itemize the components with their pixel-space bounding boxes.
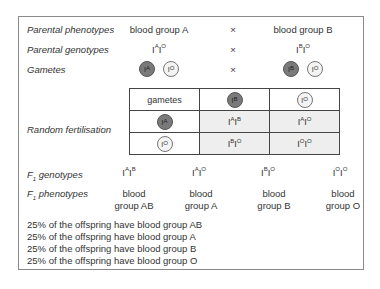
cross-symbol: × — [230, 24, 236, 35]
f1-phenotype: bloodgroup AB — [114, 188, 153, 212]
f1-phenotype: bloodgroup O — [326, 188, 360, 212]
summary-line: 25% of the offspring have blood group A — [27, 231, 202, 243]
label-f1-genotypes: F1 genotypes — [27, 169, 83, 182]
punnett-corner: gametes — [130, 89, 200, 111]
f1-phenotype: bloodgroup A — [185, 188, 218, 212]
cross-symbol: × — [230, 64, 236, 75]
f1-genotype: IAIB — [122, 167, 135, 178]
parent-a-genotype: IAIO — [152, 44, 166, 55]
punnett-col-header: IO — [270, 89, 340, 111]
f1-phenotype: bloodgroup B — [257, 188, 290, 212]
parent-b-genotype: IBIO — [296, 44, 310, 55]
punnett-square: gametes IB IO IA IAIB IAIO IO IBIO IOIO — [129, 88, 340, 155]
gamete-ia-icon: IA — [157, 114, 173, 130]
gamete-ib-icon: IB — [283, 61, 299, 77]
label-parental-phenotypes: Parental phenotypes — [27, 24, 114, 35]
label-f1-phenotypes: F1 phenotypes — [27, 188, 88, 201]
summary-line: 25% of the offspring have blood group B — [27, 243, 202, 255]
f1-genotype: IAIO — [192, 167, 206, 178]
gamete-io-icon: IO — [307, 61, 323, 77]
label-random-fertilisation: Random fertilisation — [27, 124, 111, 135]
parent-a-phenotype: blood group A — [130, 24, 189, 35]
summary-list: 25% of the offspring have blood group AB… — [27, 219, 202, 267]
gamete-io-icon: IO — [163, 61, 179, 77]
punnett-row-header: IA — [130, 111, 200, 133]
f1-genotype: IOIO — [333, 167, 348, 178]
f1-genotype: IBIO — [261, 167, 275, 178]
label-parental-genotypes: Parental genotypes — [27, 44, 109, 55]
punnett-cell: IOIO — [270, 133, 340, 155]
punnett-cell: IAIO — [270, 111, 340, 133]
label-gametes: Gametes — [27, 64, 66, 75]
punnett-col-header: IB — [200, 89, 270, 111]
gamete-ia-icon: IA — [139, 61, 155, 77]
punnett-cell: IAIB — [200, 111, 270, 133]
gamete-io-icon: IO — [297, 92, 313, 108]
summary-line: 25% of the offspring have blood group AB — [27, 219, 202, 231]
punnett-cell: IBIO — [200, 133, 270, 155]
cross-symbol: × — [230, 44, 236, 55]
summary-line: 25% of the offspring have blood group O — [27, 255, 202, 267]
punnett-row-header: IO — [130, 133, 200, 155]
parent-b-phenotype: blood group B — [273, 24, 332, 35]
gamete-ib-icon: IB — [227, 92, 243, 108]
gamete-io-icon: IO — [157, 136, 173, 152]
